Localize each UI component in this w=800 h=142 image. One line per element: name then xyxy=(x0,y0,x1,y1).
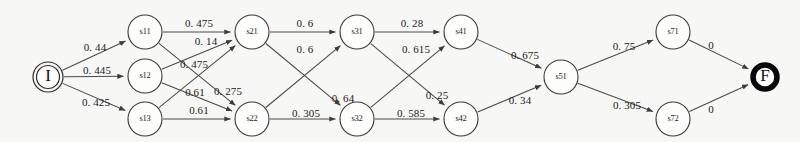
edge-weight-I-s13: 0. 425 xyxy=(82,96,110,108)
state-transition-graph: Is11s12s13s21s22s31s32s41s42s51s71s72F 0… xyxy=(0,0,800,142)
edge-weight-s13-s21: 0. 275 xyxy=(214,85,242,97)
node-s32[interactable]: s32 xyxy=(340,102,374,136)
edge-weight-s22-s31: 0. 6 xyxy=(297,43,314,55)
start-node-label: I xyxy=(45,66,51,85)
node-label-s41: s41 xyxy=(455,26,466,36)
edge-weight-s12-s21: 0. 14 xyxy=(195,35,218,47)
node-label-s72: s72 xyxy=(667,113,678,123)
edge-weight-s11-s22: 0. 475 xyxy=(180,58,208,70)
edge-weight-s32-s42: 0. 585 xyxy=(397,107,425,119)
node-s12[interactable]: s12 xyxy=(128,59,162,93)
diagram-canvas: Is11s12s13s21s22s31s32s41s42s51s71s72F 0… xyxy=(0,0,800,142)
edge-weight-s22-s32: 0. 305 xyxy=(292,107,320,119)
node-s22[interactable]: s22 xyxy=(235,102,269,136)
edge-weight-s21-s31: 0. 6 xyxy=(297,17,314,29)
edge-weight-s13-s22: 0.61 xyxy=(189,104,209,116)
node-s13[interactable]: s13 xyxy=(128,102,162,136)
edge-weight-I-s11: 0. 44 xyxy=(84,41,107,53)
node-label-s22: s22 xyxy=(246,113,257,123)
edge-weight-s51-s71: 0. 75 xyxy=(613,40,636,52)
node-s31[interactable]: s31 xyxy=(340,15,374,49)
node-label-s13: s13 xyxy=(139,113,150,123)
edge-weight-I-s12: 0. 445 xyxy=(83,64,111,76)
edge-weight-s32-s41: 0. 615 xyxy=(402,43,430,55)
edge-s22-to-s31 xyxy=(266,46,341,108)
final-node-label: F xyxy=(760,66,769,85)
node-label-s71: s71 xyxy=(667,26,678,36)
node-start-I[interactable]: I xyxy=(33,62,63,92)
node-label-s42: s42 xyxy=(455,113,466,123)
node-s21[interactable]: s21 xyxy=(235,15,269,49)
edge-weight-s31-s42: 0. 25 xyxy=(426,89,449,101)
edge-I-to-s12 xyxy=(64,76,124,77)
edge-weight-s71-F: 0 xyxy=(708,39,714,51)
node-s72[interactable]: s72 xyxy=(656,102,690,136)
node-label-s12: s12 xyxy=(139,70,150,80)
edge-weight-s51-s72: 0. 305 xyxy=(613,99,641,111)
node-s11[interactable]: s11 xyxy=(128,15,162,49)
node-s41[interactable]: s41 xyxy=(444,15,478,49)
node-label-s11: s11 xyxy=(140,26,151,36)
node-label-s21: s21 xyxy=(246,26,257,36)
node-s71[interactable]: s71 xyxy=(656,15,690,49)
edge-s71-to-F xyxy=(689,40,748,69)
node-s42[interactable]: s42 xyxy=(444,102,478,136)
edge-weight-s12-s22: 0.61 xyxy=(185,86,205,98)
edge-weight-s11-s21: 0. 475 xyxy=(185,17,213,29)
node-label-s31: s31 xyxy=(351,26,362,36)
edge-weight-s42-s51: 0. 34 xyxy=(509,94,532,106)
node-s51[interactable]: s51 xyxy=(544,60,578,94)
edge-weight-s41-s51: 0. 675 xyxy=(511,49,539,61)
edge-weight-s31-s41: 0. 28 xyxy=(401,17,424,29)
node-label-s51: s51 xyxy=(555,71,566,81)
node-final-F[interactable]: F xyxy=(753,65,777,89)
edge-s72-to-F xyxy=(689,85,748,112)
edge-weight-s21-s32: 0. 64 xyxy=(332,92,355,104)
edge-weight-s72-F: 0 xyxy=(708,103,714,115)
node-label-s32: s32 xyxy=(351,113,362,123)
